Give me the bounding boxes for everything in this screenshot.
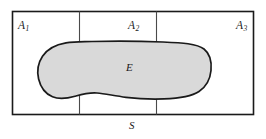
probability-partition-figure: A1 A2 A3 E S bbox=[0, 0, 266, 139]
region-label-a2: A2 bbox=[128, 20, 139, 32]
sample-space-label-s: S bbox=[129, 120, 135, 131]
event-region-e bbox=[38, 41, 211, 99]
region-label-a3: A3 bbox=[236, 20, 247, 32]
region-label-a1: A1 bbox=[18, 20, 29, 32]
event-label-e: E bbox=[126, 62, 133, 73]
